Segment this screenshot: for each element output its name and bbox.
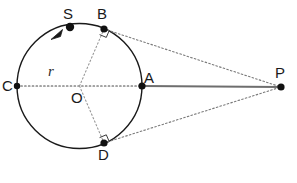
- segment-a-to-p-secant: [142, 86, 281, 87]
- point-dot-c: [14, 83, 20, 89]
- point-dot-p: [277, 83, 284, 90]
- point-dot-s: [66, 23, 74, 31]
- geometry-diagram: S B C O A D P r: [0, 0, 297, 183]
- label-point-b: B: [97, 6, 107, 21]
- label-point-s: S: [63, 6, 73, 21]
- segment-d-to-p-tangent: [104, 87, 281, 143]
- label-point-a: A: [144, 70, 154, 85]
- label-point-p: P: [275, 65, 285, 80]
- geometry-canvas: [0, 0, 297, 183]
- label-point-d: D: [98, 147, 109, 162]
- counterclockwise-arrow-icon: [51, 30, 63, 40]
- point-dot-b: [100, 25, 107, 32]
- label-point-c: C: [2, 78, 13, 93]
- segment-b-to-p-tangent: [104, 29, 281, 87]
- label-point-o: O: [71, 90, 83, 105]
- segment-o-to-b-radius: [80, 29, 105, 86]
- label-radius-r: r: [48, 64, 54, 79]
- segment-o-to-d-radius: [80, 86, 105, 143]
